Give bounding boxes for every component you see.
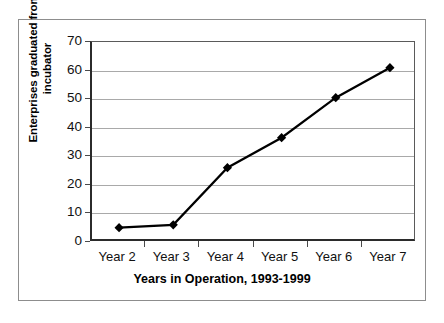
x-axis-title: Years in Operation, 1993-1999 <box>18 272 426 286</box>
data-point-marker <box>114 223 123 232</box>
y-axis-tick-label: 10 <box>48 205 82 219</box>
x-axis-tick-mark <box>198 241 199 247</box>
y-axis-title-line-1: Enterprises graduated from <box>27 0 41 169</box>
y-axis-tick-label: 0 <box>48 234 82 248</box>
x-axis-tick-mark <box>253 241 254 247</box>
x-axis-tick-mark <box>144 241 145 247</box>
y-axis-tick-label: 40 <box>48 120 82 134</box>
plot-area <box>90 41 415 241</box>
chart-figure: Enterprises graduated from incubator 010… <box>0 0 444 323</box>
y-axis-tick-mark <box>85 241 90 242</box>
x-axis-tick-mark <box>361 241 362 247</box>
y-axis-tick-label: 60 <box>48 63 82 77</box>
data-series-line <box>92 42 417 242</box>
y-axis-title-line-2: incubator <box>40 0 54 169</box>
y-axis-tick-label: 70 <box>48 34 82 48</box>
series-polyline <box>119 68 390 228</box>
x-axis-tick-label: Year 7 <box>353 249 423 264</box>
y-axis-title: Enterprises graduated from incubator <box>27 0 54 169</box>
y-axis-tick-label: 20 <box>48 177 82 191</box>
y-axis-tick-label: 50 <box>48 91 82 105</box>
y-axis-tick-label: 30 <box>48 148 82 162</box>
data-point-marker <box>385 63 394 72</box>
x-axis-tick-mark <box>307 241 308 247</box>
